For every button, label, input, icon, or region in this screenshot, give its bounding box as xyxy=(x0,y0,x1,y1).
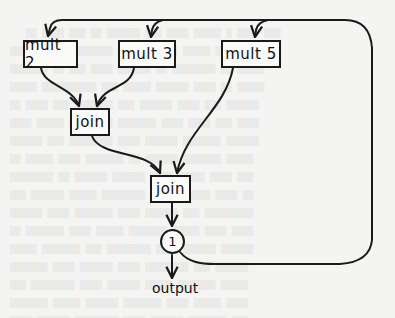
mult2-node[interactable]: mult 2 xyxy=(23,40,78,68)
mult5-to-join-edge xyxy=(177,68,233,173)
merge-circle-label: 1 xyxy=(168,234,176,249)
join-bottom-node[interactable]: join xyxy=(150,175,191,203)
mult3-to-join-edge xyxy=(97,68,134,106)
mult5-node[interactable]: mult 5 xyxy=(221,40,281,68)
mult3-node[interactable]: mult 3 xyxy=(118,40,176,68)
feedback-to-mult5-edge xyxy=(255,20,268,37)
merge-circle-node[interactable]: 1 xyxy=(160,229,185,254)
mult2-label: mult 2 xyxy=(25,36,76,72)
join-to-join-edge xyxy=(92,136,160,173)
join-top-node[interactable]: join xyxy=(70,108,110,136)
output-label: output xyxy=(152,280,198,296)
join-top-label: join xyxy=(75,113,104,131)
mult2-to-join-edge xyxy=(41,68,79,106)
mult3-label: mult 3 xyxy=(121,45,172,63)
mult5-label: mult 5 xyxy=(225,45,276,63)
join-bottom-label: join xyxy=(156,180,185,198)
feedback-to-mult3-edge xyxy=(151,20,163,37)
